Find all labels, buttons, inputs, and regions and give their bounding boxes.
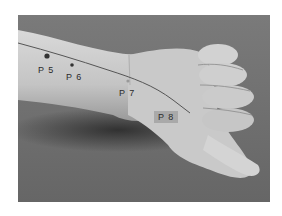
forearm-illustration — [18, 15, 270, 202]
point-label-p8: P 8 — [154, 111, 178, 123]
point-label-p7: P 7 — [119, 88, 135, 98]
point-label-p5: P 5 — [38, 65, 54, 75]
point-label-p6: P 6 — [66, 72, 82, 82]
acupoint-photo: P 5 P 6 P 7 P 8 — [18, 15, 270, 202]
